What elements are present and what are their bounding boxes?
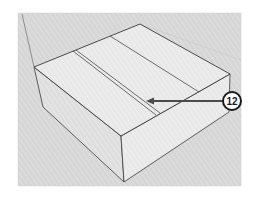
callout-number: 12 — [226, 96, 238, 107]
callout-badge: 12 — [223, 92, 241, 110]
diagram-canvas: 12 — [0, 0, 256, 199]
